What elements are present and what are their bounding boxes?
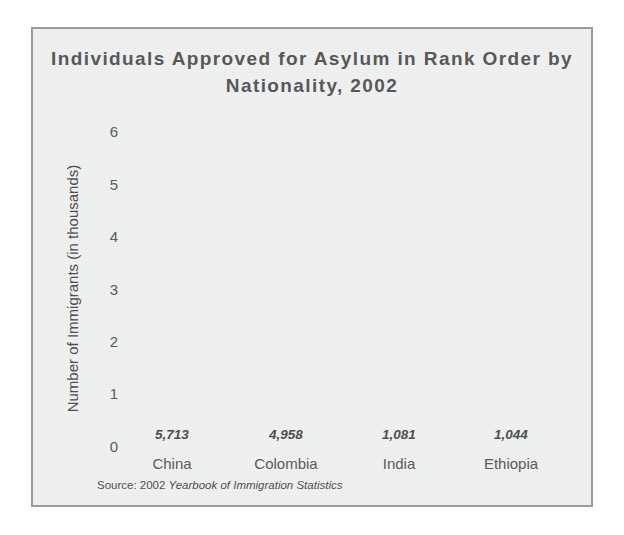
bar-value-label: 1,044: [469, 427, 553, 442]
source-prefix: Source: 2002: [97, 479, 169, 491]
chart-figure: Individuals Approved for Asylum in Rank …: [31, 27, 593, 507]
y-axis-title-text: Number of Immigrants (in thousands): [65, 165, 82, 413]
y-axis-title: Number of Immigrants (in thousands): [63, 131, 83, 446]
source-title: Yearbook of Immigration Statistics: [169, 479, 343, 491]
bar-series: 5,713 China 4,958 Colombia 1,081 India 1…: [130, 131, 565, 446]
plot-area: 6 5 4 3 2 1 0 5,713 China 4,958 Colombia…: [130, 131, 565, 446]
y-tick-label: 1: [110, 385, 118, 402]
category-label: Ethiopia: [449, 455, 573, 472]
y-tick-label: 0: [110, 438, 118, 455]
y-tick-label: 2: [110, 333, 118, 350]
category-label: Colombia: [224, 455, 348, 472]
bar-value-label: 5,713: [130, 427, 214, 442]
y-tick-label: 5: [110, 175, 118, 192]
chart-title: Individuals Approved for Asylum in Rank …: [33, 45, 591, 99]
y-tick-label: 6: [110, 123, 118, 140]
category-label: China: [110, 455, 234, 472]
category-label: India: [337, 455, 461, 472]
y-tick-label: 4: [110, 227, 118, 244]
y-tick-label: 3: [110, 280, 118, 297]
bar-value-label: 1,081: [357, 427, 441, 442]
bar-value-label: 4,958: [244, 427, 328, 442]
source-note: Source: 2002 Yearbook of Immigration Sta…: [97, 479, 342, 491]
